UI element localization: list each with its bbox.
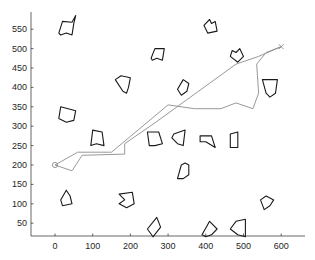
y-tick-label: 350 <box>12 102 27 112</box>
y-tick-label: 100 <box>12 199 27 209</box>
x-tick-label: 600 <box>274 241 289 251</box>
y-tick-label: 550 <box>12 24 27 34</box>
y-tick-label: 300 <box>12 121 27 131</box>
goal-x-icon <box>279 44 284 49</box>
y-tick-label: 500 <box>12 44 27 54</box>
obstacle-polygon <box>151 49 164 61</box>
plot-canvas: 0100200300400500600 50100150200250300350… <box>0 0 315 260</box>
x-tick-label: 100 <box>85 241 100 251</box>
x-tick-label: 200 <box>123 241 138 251</box>
obstacle-polygon <box>230 132 238 148</box>
x-tick-label: 400 <box>198 241 213 251</box>
obstacle-polygon <box>115 76 130 93</box>
obstacle-polygon <box>59 16 76 35</box>
obstacle-polygon <box>119 192 134 208</box>
path-planning-plot: 0100200300400500600 50100150200250300350… <box>0 0 315 260</box>
obstacle-polygon <box>204 20 217 34</box>
y-tick-label: 50 <box>17 218 27 228</box>
obstacle-polygon <box>178 80 189 96</box>
obstacle-polygon <box>59 107 76 123</box>
path-line-1 <box>55 47 281 165</box>
obstacle-polygon <box>147 132 162 146</box>
obstacle-polygon <box>230 219 245 237</box>
obstacle-polygon <box>178 163 189 179</box>
x-tick-label: 300 <box>161 241 176 251</box>
y-axis-ticks: 50100150200250300350400450500550 <box>12 24 34 228</box>
obstacle-polygon <box>202 221 217 237</box>
obstacle-polygon <box>200 136 215 148</box>
x-tick-label: 0 <box>52 241 57 251</box>
obstacle-polygon <box>61 190 72 206</box>
obstacle-polygon <box>147 217 160 236</box>
y-tick-label: 400 <box>12 82 27 92</box>
y-tick-label: 450 <box>12 63 27 73</box>
paths-layer <box>55 47 281 171</box>
obstacle-polygon <box>261 196 274 210</box>
y-tick-label: 150 <box>12 179 27 189</box>
y-tick-label: 250 <box>12 141 27 151</box>
obstacles-layer <box>59 16 278 237</box>
obstacle-polygon <box>91 130 104 146</box>
obstacle-polygon <box>230 49 243 63</box>
markers-layer <box>52 44 283 167</box>
obstacle-polygon <box>172 130 185 146</box>
obstacle-polygon <box>262 80 277 98</box>
x-tick-label: 500 <box>236 241 251 251</box>
y-tick-label: 200 <box>12 160 27 170</box>
